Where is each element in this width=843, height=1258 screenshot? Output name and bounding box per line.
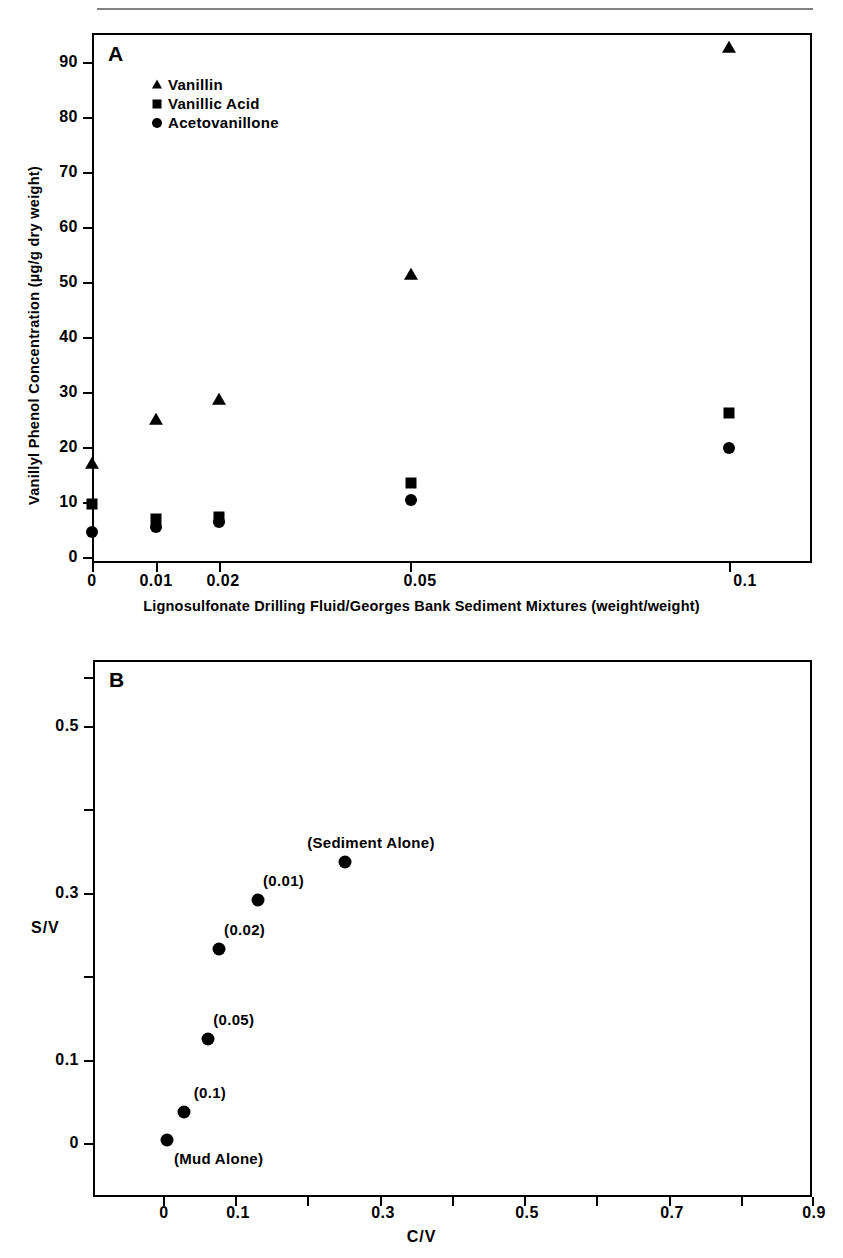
panel-b-ytick-03 xyxy=(84,893,94,895)
data-point-marker xyxy=(251,894,264,907)
panel-b-ytick-06-minor xyxy=(84,677,94,679)
panel-b-xtick-label-05: 0.5 xyxy=(515,1204,539,1222)
data-point-marker xyxy=(177,1106,190,1119)
panel-b-ytick-label-05: 0.5 xyxy=(34,717,79,735)
panel-b-ytick-01 xyxy=(84,1060,94,1062)
panel-b-xtick-label-07: 0.7 xyxy=(660,1204,684,1222)
panel-b-ytick-04-minor xyxy=(84,809,94,811)
panel-b-xtick-06-minor xyxy=(596,1197,598,1206)
panel-b-ytick-02-minor xyxy=(84,976,94,978)
data-point-label: (Sediment Alone) xyxy=(307,834,435,851)
panel-b: B S/V 0 0.1 0.3 0.5 0 0.1 0.3 0.5 0.7 xyxy=(0,0,843,1258)
panel-b-xtick-label-09: 0.9 xyxy=(802,1204,826,1222)
panel-b-plot-frame xyxy=(93,660,812,1197)
data-point-marker xyxy=(201,1033,214,1046)
panel-b-ytick-label-03: 0.3 xyxy=(34,884,79,902)
panel-b-ytick-0 xyxy=(84,1143,94,1145)
data-point-label: (Mud Alone) xyxy=(174,1150,263,1167)
panel-b-xtick-04-minor xyxy=(452,1197,454,1206)
data-point-label: (0.05) xyxy=(213,1011,254,1028)
panel-b-xtick-label-03: 0.3 xyxy=(371,1204,395,1222)
panel-b-y-axis-title: S/V xyxy=(31,919,60,937)
panel-b-xtick-label-0: 0 xyxy=(159,1204,168,1222)
panel-b-xtick-label-01: 0.1 xyxy=(226,1204,250,1222)
data-point-label: (0.01) xyxy=(263,872,304,889)
panel-b-ytick-label-0: 0 xyxy=(34,1134,79,1152)
panel-b-ytick-label-01: 0.1 xyxy=(34,1051,79,1069)
data-point-label: (0.1) xyxy=(194,1084,226,1101)
panel-b-xtick-08-minor xyxy=(741,1197,743,1206)
data-point-marker xyxy=(338,855,351,868)
data-point-marker xyxy=(212,943,225,956)
panel-b-ytick-05 xyxy=(84,726,94,728)
panel-b-xtick-02-minor xyxy=(307,1197,309,1206)
panel-b-x-axis-title: C/V xyxy=(0,1228,843,1246)
panel-b-letter: B xyxy=(109,668,125,692)
data-point-label: (0.02) xyxy=(224,921,265,938)
data-point-marker xyxy=(160,1133,173,1146)
